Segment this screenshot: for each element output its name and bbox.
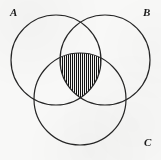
set-label-a: A (10, 7, 17, 18)
set-label-c: C (144, 137, 151, 148)
venn-diagram-figure: A B C (0, 0, 161, 160)
shaded-region-group (0, 0, 161, 160)
shaded-region-a-and-b-and-c (0, 0, 161, 160)
venn-diagram-canvas (0, 0, 161, 160)
set-label-b: B (143, 7, 150, 18)
